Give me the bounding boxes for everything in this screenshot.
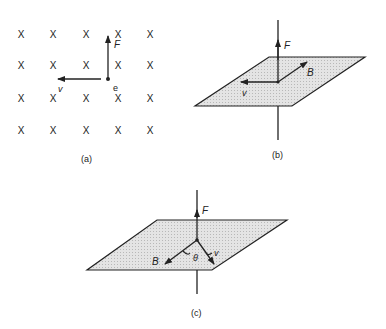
field-x-symbol: X	[83, 93, 90, 104]
field-x-symbol: X	[83, 125, 90, 136]
velocity-label: v	[242, 88, 247, 98]
plane	[195, 57, 365, 106]
field-x-symbol: X	[18, 93, 25, 104]
panel-c: F B v θ (c)	[87, 190, 287, 318]
panel-b: F B v (b)	[195, 20, 365, 160]
field-x-symbol: X	[115, 93, 122, 104]
field-x-symbol: X	[115, 125, 122, 136]
field-x-symbol: X	[50, 29, 57, 40]
force-label: F	[284, 40, 291, 51]
charge-dot	[106, 77, 110, 81]
origin-dot	[276, 80, 279, 83]
field-x-symbol: X	[147, 29, 154, 40]
caption-a: (a)	[81, 154, 92, 164]
panel-a: XXXXXXXXXXXXXXXXXXXX F e v (a)	[18, 29, 154, 164]
field-label: B	[307, 67, 314, 78]
force-label: F	[202, 205, 209, 216]
charge-label: e	[113, 83, 118, 93]
origin-dot	[195, 238, 199, 242]
field-x-symbol: X	[83, 29, 90, 40]
field-x-symbol: X	[50, 93, 57, 104]
angle-label: θ	[193, 253, 198, 263]
field-x-symbol: X	[18, 60, 25, 71]
field-x-symbol: X	[18, 125, 25, 136]
field-x-symbol: X	[18, 29, 25, 40]
field-x-grid: XXXXXXXXXXXXXXXXXXXX	[18, 29, 154, 136]
field-x-symbol: X	[83, 60, 90, 71]
field-label: B	[152, 256, 159, 267]
field-x-symbol: X	[50, 125, 57, 136]
caption-c: (c)	[191, 308, 202, 318]
field-x-symbol: X	[147, 60, 154, 71]
field-x-symbol: X	[147, 125, 154, 136]
field-x-symbol: X	[115, 60, 122, 71]
field-x-symbol: X	[50, 60, 57, 71]
caption-b: (b)	[272, 150, 283, 160]
force-label: F	[114, 39, 121, 50]
field-x-symbol: X	[147, 93, 154, 104]
plane	[87, 220, 287, 270]
velocity-label: v	[58, 84, 63, 94]
velocity-label: v	[214, 248, 219, 258]
